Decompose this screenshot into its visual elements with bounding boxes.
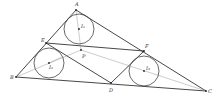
label-C: C bbox=[208, 88, 212, 94]
point-E bbox=[45, 42, 47, 44]
label-P: P bbox=[81, 53, 86, 59]
segment-FD bbox=[111, 51, 144, 83]
point-B bbox=[15, 76, 17, 78]
point-P bbox=[80, 49, 82, 51]
label-A: A bbox=[74, 1, 79, 7]
point-F bbox=[143, 50, 145, 52]
segment-EF bbox=[46, 43, 144, 51]
segment-ED bbox=[46, 43, 111, 83]
label-center-left: I₂ bbox=[48, 64, 53, 70]
center-top bbox=[78, 28, 80, 30]
point-A bbox=[75, 9, 77, 11]
label-center-top: I₁ bbox=[80, 23, 85, 29]
label-E: E bbox=[40, 37, 45, 43]
label-F: F bbox=[144, 43, 149, 49]
label-B: B bbox=[9, 74, 14, 80]
aux-radius-left bbox=[49, 57, 62, 63]
center-right bbox=[143, 70, 145, 72]
geometry-diagram: A B C D E F P I₁ I₂ I₃ bbox=[0, 0, 223, 99]
label-D: D bbox=[108, 87, 113, 93]
point-D bbox=[110, 82, 112, 84]
point-C bbox=[205, 90, 207, 92]
label-center-right: I₃ bbox=[145, 65, 150, 71]
